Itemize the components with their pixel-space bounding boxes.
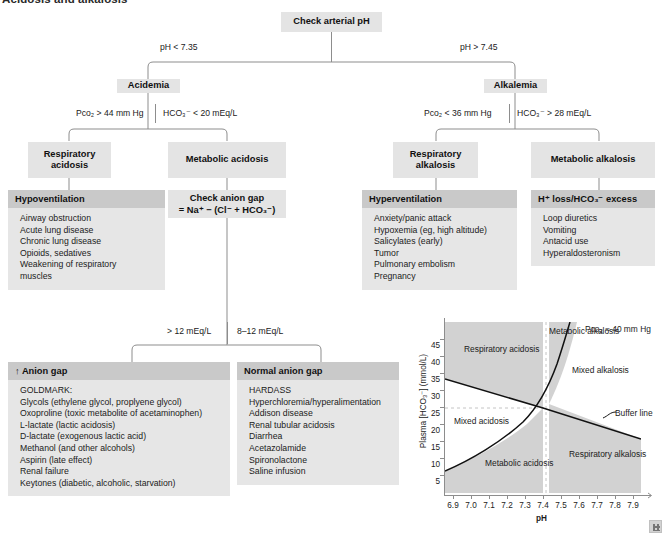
- x-tick: 7.4: [533, 501, 553, 510]
- region-label-respiratory-acidosis: Respiratory acidosis: [464, 344, 534, 354]
- y-tick: 35: [424, 375, 440, 384]
- list-item: Salicylates (early): [374, 236, 511, 248]
- x-tick-mark: [471, 495, 472, 499]
- list-item: Spironolactone: [249, 455, 393, 467]
- list-item: Vomiting: [543, 225, 649, 237]
- list-item: Aspirin (late effect): [20, 455, 224, 467]
- x-tick-mark: [633, 495, 634, 499]
- list-item: Renal tubular acidosis: [249, 420, 393, 432]
- y-tick-mark: [440, 424, 444, 425]
- panel-header: Hyperventilation: [362, 190, 517, 208]
- list-item: Anxiety/panic attack: [374, 213, 511, 225]
- y-tick-mark: [440, 407, 444, 408]
- panel-hyperventilation: Hyperventilation Anxiety/panic attack Hy…: [362, 190, 517, 290]
- x-tick: 7.1: [479, 501, 499, 510]
- list-item: Acute lung disease: [20, 225, 159, 237]
- panel-list: Loop diuretics Vomiting Antacid use Hype…: [531, 208, 655, 266]
- x-tick: 7.0: [461, 501, 481, 510]
- x-tick-mark: [453, 495, 454, 499]
- node-label: Alkalemia: [494, 80, 537, 92]
- y-tick-mark: [440, 339, 444, 340]
- node-metabolic-acidosis[interactable]: Metabolic acidosis: [168, 142, 286, 178]
- y-tick: 45: [424, 341, 440, 350]
- node-label: Metabolic acidosis: [186, 154, 269, 166]
- panel-list: GOLDMARK: Glycols (ethylene glycol, prop…: [8, 380, 230, 496]
- x-tick: 7.9: [623, 501, 643, 510]
- x-tick: 7.3: [515, 501, 535, 510]
- x-tick-mark: [507, 495, 508, 499]
- list-item: Loop diuretics: [543, 213, 649, 225]
- x-tick-mark: [543, 495, 544, 499]
- y-tick: 30: [424, 392, 440, 401]
- list-item: D-lactate (exogenous lactic acid): [20, 431, 224, 443]
- branch-label-ph-low: pH < 7.35: [160, 42, 198, 52]
- region-text: Mixed acidosis: [454, 416, 509, 426]
- list-item: Keytones (diabetic, alcoholic, starvatio…: [20, 478, 224, 490]
- list-item: Renal failure: [20, 466, 224, 478]
- node-check-anion-gap[interactable]: Check anion gap = Na⁺ − (Cl⁻ + HCO₃⁻): [168, 190, 286, 218]
- y-tick: 5: [424, 477, 440, 486]
- branch-label-ph-high: pH > 7.45: [460, 42, 498, 52]
- y-tick: 15: [424, 443, 440, 452]
- x-tick-mark: [561, 495, 562, 499]
- panel-header: ↑ Anion gap: [8, 362, 230, 380]
- annotation-pco2-isobar: Pco₂ = 40 mm Hg: [585, 324, 657, 334]
- panel-list: Airway obstruction Acute lung disease Ch…: [8, 208, 165, 290]
- region-label-metabolic-acidosis: Metabolic acidosis: [485, 458, 547, 468]
- list-item: L-lactate (lactic acidosis): [20, 420, 224, 432]
- list-item: Addison disease: [249, 408, 393, 420]
- list-item: Glycols (ethylene glycol, proplyene glyc…: [20, 397, 224, 409]
- chart-x-axis: [444, 495, 647, 496]
- node-respiratory-acidosis[interactable]: Respiratory acidosis: [28, 142, 111, 178]
- x-tick-mark: [579, 495, 580, 499]
- annotation-text: Buffer line: [615, 408, 653, 418]
- list-item: Antacid use: [543, 236, 649, 248]
- node-respiratory-alkalosis[interactable]: Respiratory alkalosis: [393, 142, 478, 178]
- x-tick: 6.9: [443, 501, 463, 510]
- node-check-arterial-ph[interactable]: Check arterial pH: [281, 12, 382, 32]
- y-tick-mark: [440, 373, 444, 374]
- y-tick-mark: [440, 390, 444, 391]
- annotation-buffer-line: Buffer line: [615, 408, 663, 418]
- panel-list: Anxiety/panic attack Hypoxemia (eg, high…: [362, 208, 517, 290]
- source-watermark-icon: [649, 520, 662, 533]
- y-tick: 25: [424, 409, 440, 418]
- buffer-line-leader: [600, 404, 620, 422]
- x-tick: 7.5: [551, 501, 571, 510]
- list-item: Pulmonary embolism: [374, 259, 511, 271]
- chart-y-axis: [444, 318, 445, 495]
- node-metabolic-alkalosis[interactable]: Metabolic alkalosis: [531, 142, 655, 178]
- branch-label-pco2-high: Pco₂ > 44 mm Hg: [76, 108, 144, 118]
- acid-base-chart: Plasma [HCO₃⁻] (mmol/L) 45 40 35 30 25 2…: [412, 318, 663, 535]
- panel-h-loss-hco3-excess: H⁺ loss/HCO₃⁻ excess Loop diuretics Vomi…: [531, 190, 655, 266]
- y-tick-mark: [440, 441, 444, 442]
- y-tick-mark: [440, 458, 444, 459]
- panel-header: H⁺ loss/HCO₃⁻ excess: [531, 190, 655, 208]
- x-tick-mark: [489, 495, 490, 499]
- chart-x-axis-arrow: [644, 491, 654, 500]
- list-item: Hyperaldosteronism: [543, 248, 649, 260]
- x-tick: 7.6: [569, 501, 589, 510]
- list-item: Chronic lung disease: [20, 236, 159, 248]
- y-tick: 40: [424, 358, 440, 367]
- list-item: Acetazolamide: [249, 443, 393, 455]
- region-label-respiratory-alkalosis: Respiratory alkalosis: [569, 449, 631, 459]
- branch-divider-left: [155, 104, 156, 123]
- x-tick: 7.7: [587, 501, 607, 510]
- node-label: Check arterial pH: [293, 16, 369, 28]
- node-acidemia[interactable]: Acidemia: [117, 79, 180, 93]
- node-alkalemia[interactable]: Alkalemia: [484, 79, 547, 93]
- panel-increased-anion-gap: ↑ Anion gap GOLDMARK: Glycols (ethylene …: [8, 362, 230, 496]
- list-item: Tumor: [374, 248, 511, 260]
- branch-label-gap-high: > 12 mEq/L: [167, 326, 211, 336]
- list-item: Pregnancy: [374, 271, 511, 283]
- x-tick: 7.2: [497, 501, 517, 510]
- branch-label-pco2-low: Pco₂ < 36 mm Hg: [424, 108, 492, 118]
- y-tick: 20: [424, 426, 440, 435]
- list-item: GOLDMARK:: [20, 385, 224, 397]
- region-text: Mixed alkalosis: [572, 365, 629, 375]
- list-item: Saline infusion: [249, 466, 393, 478]
- panel-header: Normal anion gap: [237, 362, 399, 380]
- list-item: HARDASS: [249, 385, 393, 397]
- x-tick: 7.8: [605, 501, 625, 510]
